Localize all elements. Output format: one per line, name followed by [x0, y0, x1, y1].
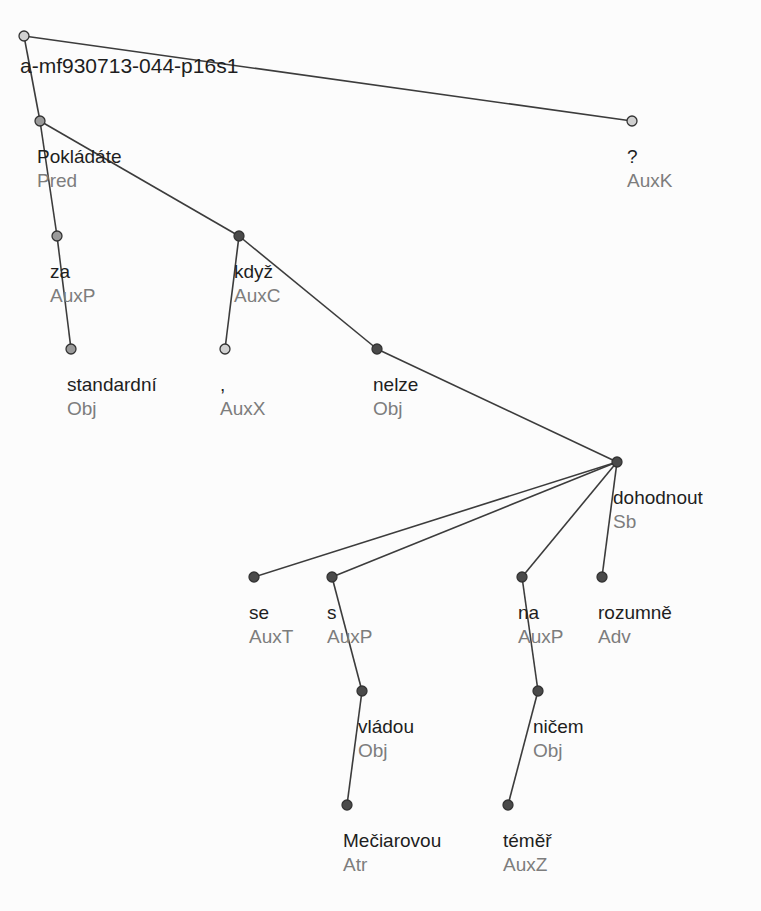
dependency-tree-canvas: a-mf930713-044-p16s1PokládátePredzaAuxPs… [0, 0, 761, 911]
tree-node-label[interactable]: téměřAuxZ [503, 831, 552, 879]
word-form: rozumně [598, 603, 672, 627]
word-form: na [518, 603, 563, 627]
sentence-id: a-mf930713-044-p16s1 [20, 55, 238, 79]
tree-node-label[interactable]: standardníObj [67, 375, 157, 423]
tree-node-label[interactable]: ničemObj [533, 717, 584, 765]
tree-node-label[interactable]: seAuxT [249, 603, 293, 651]
word-form: téměř [503, 831, 552, 855]
word-form: vládou [358, 717, 414, 741]
tree-node-label[interactable]: naAuxP [518, 603, 563, 651]
tree-node-n13-dot[interactable] [533, 686, 543, 696]
tree-node-label[interactable]: PokládátePred [37, 147, 122, 195]
word-form: , [220, 375, 265, 399]
word-form: nelze [373, 375, 418, 399]
tree-node-n2-dot[interactable] [52, 231, 62, 241]
analytical-function: Atr [343, 855, 441, 879]
analytical-function: Obj [373, 399, 418, 423]
tree-node-n12-dot[interactable] [517, 572, 527, 582]
analytical-function: AuxP [50, 286, 95, 310]
analytical-function: AuxP [518, 627, 563, 651]
tree-node-n8-dot[interactable] [249, 572, 259, 582]
tree-node-n14-dot[interactable] [503, 800, 513, 810]
tree-node-n15-dot[interactable] [597, 572, 607, 582]
tree-node-n6-dot[interactable] [372, 344, 382, 354]
tree-node-label[interactable]: ,AuxX [220, 375, 265, 423]
tree-node-n5-dot[interactable] [220, 344, 230, 354]
tree-node-label[interactable]: sAuxP [327, 603, 372, 651]
word-form: se [249, 603, 293, 627]
analytical-function: AuxT [249, 627, 293, 651]
word-form: dohodnout [613, 488, 703, 512]
tree-root-label[interactable]: a-mf930713-044-p16s1 [20, 55, 238, 79]
tree-node-n16-dot[interactable] [627, 116, 637, 126]
tree-edges-layer [0, 0, 761, 911]
analytical-function: Obj [358, 741, 414, 765]
edge-n7-to-n12 [522, 462, 617, 577]
word-form: za [50, 262, 95, 286]
analytical-function: AuxK [627, 171, 672, 195]
tree-node-label[interactable]: MečiarovouAtr [343, 831, 441, 879]
tree-node-label[interactable]: rozumněAdv [598, 603, 672, 651]
tree-node-label[interactable]: vládouObj [358, 717, 414, 765]
tree-node-label[interactable]: ?AuxK [627, 147, 672, 195]
analytical-function: Sb [613, 512, 703, 536]
word-form: ničem [533, 717, 584, 741]
tree-node-n7-dot[interactable] [612, 457, 622, 467]
tree-node-n3-dot[interactable] [66, 344, 76, 354]
tree-node-n1-dot[interactable] [35, 116, 45, 126]
word-form: Mečiarovou [343, 831, 441, 855]
edge-n7-to-n8 [254, 462, 617, 577]
analytical-function: AuxX [220, 399, 265, 423]
word-form: Pokládáte [37, 147, 122, 171]
word-form: když [234, 262, 280, 286]
edge-n7-to-n9 [332, 462, 617, 577]
analytical-function: AuxZ [503, 855, 552, 879]
analytical-function: Pred [37, 171, 122, 195]
analytical-function: Obj [533, 741, 584, 765]
tree-node-label[interactable]: nelzeObj [373, 375, 418, 423]
tree-node-label[interactable]: zaAuxP [50, 262, 95, 310]
tree-node-root-dot[interactable] [19, 31, 29, 41]
tree-node-n11-dot[interactable] [342, 800, 352, 810]
analytical-function: Obj [67, 399, 157, 423]
word-form: ? [627, 147, 672, 171]
analytical-function: AuxP [327, 627, 372, 651]
tree-node-n4-dot[interactable] [234, 231, 244, 241]
tree-node-n9-dot[interactable] [327, 572, 337, 582]
analytical-function: AuxC [234, 286, 280, 310]
tree-node-label[interactable]: dohodnoutSb [613, 488, 703, 536]
tree-node-label[interactable]: kdyžAuxC [234, 262, 280, 310]
word-form: standardní [67, 375, 157, 399]
tree-node-n10-dot[interactable] [357, 686, 367, 696]
analytical-function: Adv [598, 627, 672, 651]
word-form: s [327, 603, 372, 627]
